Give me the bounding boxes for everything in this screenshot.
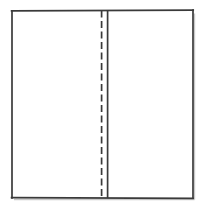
diagram-canvas: [0, 0, 202, 210]
outline-bottom-edge: [12, 198, 193, 199]
panel-fold-diagram: [0, 0, 202, 210]
